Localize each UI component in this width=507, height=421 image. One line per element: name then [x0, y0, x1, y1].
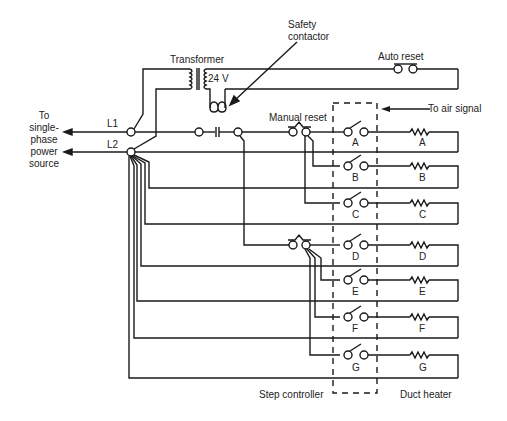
switch-c-label: C — [352, 209, 359, 221]
heater-g-resistor-icon — [410, 352, 429, 358]
heater-b-resistor-icon — [410, 163, 429, 169]
heater-c-label: C — [419, 209, 426, 221]
transformer-secondary-coil-icon — [204, 69, 206, 89]
step-controller-label: Step controller — [259, 389, 323, 401]
switch-d-label: D — [352, 251, 359, 263]
heater-d-label: D — [419, 251, 426, 263]
switch-b-label: B — [352, 172, 359, 184]
heater-d-resistor-icon — [410, 242, 429, 248]
source-label: To single- phase power source — [22, 110, 66, 170]
heater-e-resistor-icon — [410, 277, 429, 283]
transformer-label: Transformer — [170, 54, 224, 66]
heater-b-label: B — [419, 172, 426, 184]
safety-contactor-coil-icon — [210, 102, 226, 112]
switch-a-label: A — [352, 137, 359, 149]
stage-f — [344, 306, 458, 338]
l1-terminal — [127, 128, 135, 136]
heater-a-label: A — [419, 137, 426, 149]
safety-contactor-pointer — [234, 42, 297, 101]
l2-terminal — [127, 148, 135, 156]
switch-e-label: E — [352, 286, 359, 298]
air-signal-arrow-icon — [381, 106, 390, 112]
manual-reset-contact-1 — [289, 128, 297, 136]
l2-label: L2 — [107, 139, 118, 151]
stage-d — [344, 234, 458, 266]
heater-e-label: E — [419, 286, 426, 298]
safety-contact-1 — [195, 128, 203, 136]
transformer-primary-wire-1 — [134, 69, 190, 129]
auto-reset-label: Auto reset — [378, 51, 424, 63]
manual-reset-contact-2 — [302, 128, 310, 136]
auto-reset-contact-2 — [409, 65, 417, 73]
duct-heater-label: Duct heater — [400, 389, 452, 401]
transformer-primary-coil-icon — [190, 69, 192, 89]
wiring-diagram — [0, 0, 507, 421]
switch-f-label: F — [352, 323, 358, 335]
safety-contactor-label: Safety contactor — [288, 19, 329, 43]
heater-c-resistor-icon — [410, 200, 429, 206]
safety-contact-2 — [234, 128, 242, 136]
manual-reset2-contact-1 — [289, 241, 297, 249]
auto-reset-contact-1 — [394, 65, 402, 73]
manual-reset-label: Manual reset — [269, 112, 327, 124]
l1-label: L1 — [107, 118, 118, 130]
manual-reset2-contact-2 — [302, 241, 310, 249]
air-signal-label: To air signal — [428, 103, 481, 115]
heater-f-resistor-icon — [410, 314, 429, 320]
heater-f-label: F — [419, 323, 425, 335]
heater-a-resistor-icon — [410, 129, 429, 135]
stage-g — [344, 344, 458, 378]
voltage-label: 24 V — [208, 73, 229, 85]
stage-b — [344, 155, 458, 188]
switch-g-label: G — [352, 362, 360, 374]
stage-e — [344, 269, 458, 301]
stage-c — [344, 192, 458, 224]
heater-g-label: G — [419, 362, 427, 374]
